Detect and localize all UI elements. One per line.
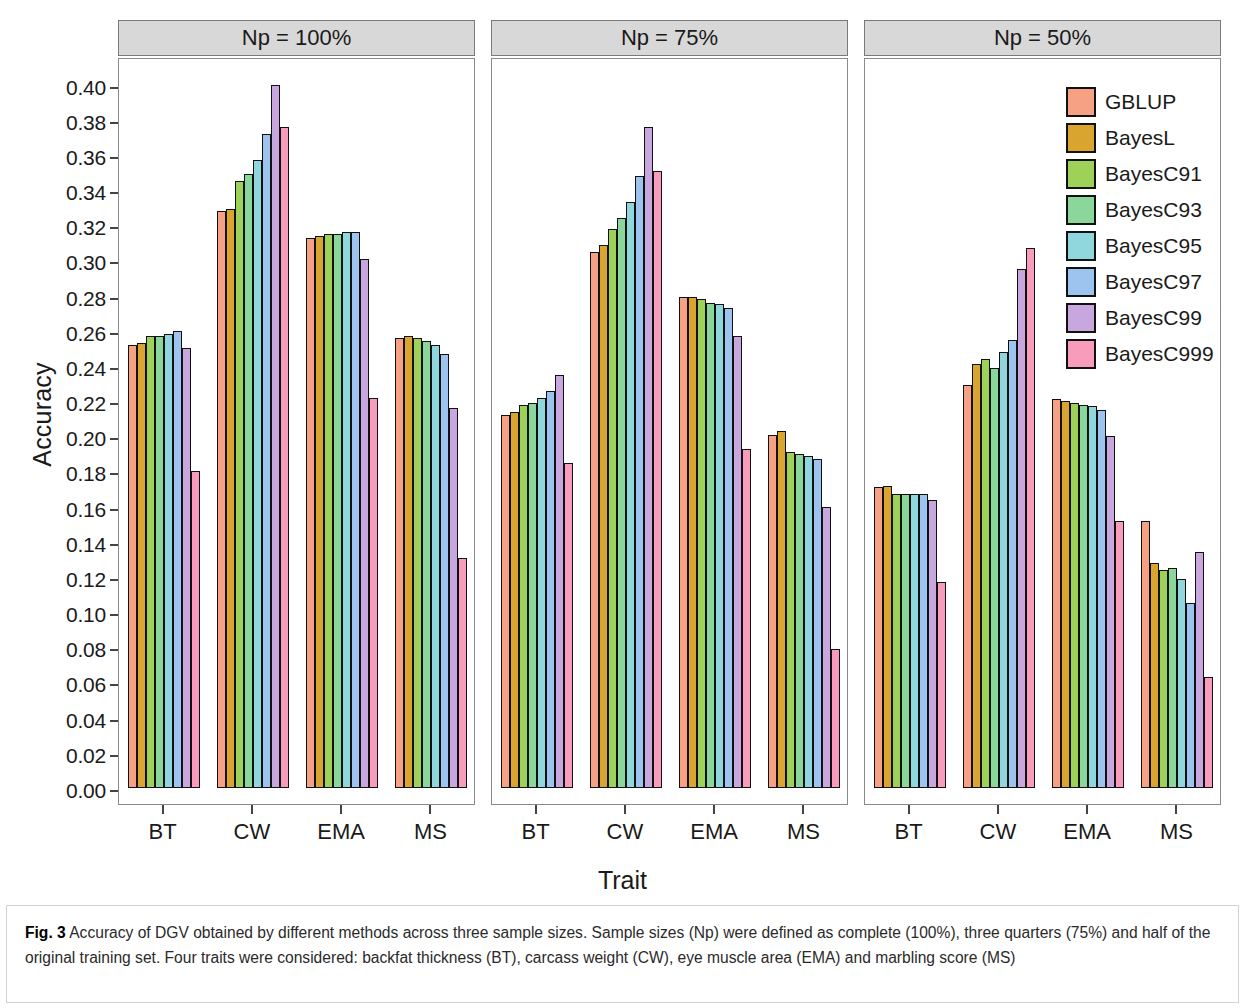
legend-label: GBLUP [1105,90,1176,114]
y-axis-tick-label: 0.28 [66,287,106,311]
bar [599,245,608,788]
legend: GBLUPBayesLBayesC91BayesC93BayesC95Bayes… [1066,84,1236,372]
bar [724,308,733,788]
bar [537,398,546,788]
bar [635,176,644,788]
figure-caption: Fig. 3 Accuracy of DGV obtained by diffe… [6,905,1239,1003]
y-axis-tick-label: 0.16 [66,498,106,522]
x-axis-tick-mark [429,805,431,814]
panel-container: Np = 100%BTCWEMAMSNp = 75%BTCWEMAMSNp = … [118,20,1223,860]
bar [999,352,1008,788]
bar [786,452,795,788]
bar [1106,436,1115,788]
y-axis-tick-label: 0.38 [66,111,106,135]
bar [937,582,946,788]
y-axis-tick-mark [110,579,118,581]
figure-label: Fig. 3 [25,924,66,941]
x-axis-tick-label: BT [522,819,550,845]
legend-label: BayesC99 [1105,306,1202,330]
y-axis-tick-mark [110,192,118,194]
bar [590,252,599,788]
y-axis-tick-label: 0.08 [66,638,106,662]
bar [883,486,892,788]
bar [1088,406,1097,788]
bar [528,403,537,788]
legend-swatch [1066,195,1096,225]
bar [226,209,235,788]
bar [555,375,564,788]
y-axis-tick-mark [110,755,118,757]
bar [191,471,200,788]
bar [831,649,840,788]
bar [1070,403,1079,788]
bar [1195,552,1204,788]
bar [1061,401,1070,788]
bar [804,456,813,788]
bar [777,431,786,788]
bar [1079,405,1088,788]
legend-swatch [1066,303,1096,333]
x-axis-tick-label: BT [895,819,923,845]
y-axis-tick-mark [110,720,118,722]
y-axis-tick-mark [110,790,118,792]
y-axis-tick-mark [110,157,118,159]
y-axis-tick-label: 0.10 [66,603,106,627]
bar [253,160,262,788]
bar-group-bt [492,58,581,804]
y-axis-tick-mark [110,614,118,616]
bar [137,343,146,788]
bar [972,364,981,788]
x-axis-tick-mark [997,805,999,814]
bar [617,218,626,788]
x-axis-tick-mark [908,805,910,814]
bar-groups [119,59,474,804]
bar [182,348,191,788]
bar [697,299,706,788]
x-axis-tick-label: EMA [317,819,365,845]
x-axis-tick-mark [340,805,342,814]
caption-body: Accuracy of DGV obtained by different me… [25,924,1210,966]
bar [155,336,164,788]
legend-swatch [1066,87,1096,117]
bar-groups [492,59,847,804]
x-axis-tick-label: MS [1160,819,1193,845]
panel-title: Np = 75% [491,20,848,56]
bar [1168,568,1177,788]
y-axis-tick-label: 0.30 [66,251,106,275]
y-axis-tick-mark [110,298,118,300]
x-axis-tick-label: CW [607,819,644,845]
legend-label: BayesC95 [1105,234,1202,258]
y-axis-tick-label: 0.12 [66,568,106,592]
legend-label: BayesC97 [1105,270,1202,294]
y-axis-tick-mark [110,227,118,229]
bar [608,229,617,788]
legend-item-bayesc999: BayesC999 [1066,336,1236,372]
x-axis-label: Trait [0,866,1245,895]
bar [546,391,555,788]
bar [795,454,804,788]
bar [1008,340,1017,788]
x-axis-tick-label: MS [414,819,447,845]
bar [342,232,351,788]
x-axis-tick-label: EMA [1063,819,1111,845]
bar [928,500,937,788]
y-axis-tick-mark [110,544,118,546]
bar [1186,603,1195,788]
bar-group-bt [865,58,954,804]
y-axis-tick-label: 0.26 [66,322,106,346]
bar-group-cw [208,58,297,804]
bar [333,234,342,788]
bar [244,174,253,788]
chart-plot-area: Accuracy Trait 0.000.020.040.060.080.100… [0,0,1245,900]
x-axis-tick-label: CW [980,819,1017,845]
y-axis-tick-mark [110,368,118,370]
y-axis-tick-mark [110,262,118,264]
x-axis-tick-mark [251,805,253,814]
bar-group-cw [581,58,670,804]
legend-label: BayesL [1105,126,1175,150]
bar [146,336,155,788]
bar [1097,410,1106,788]
y-axis-tick-label: 0.06 [66,673,106,697]
bar-group-bt [119,58,208,804]
legend-item-bayesc93: BayesC93 [1066,192,1236,228]
